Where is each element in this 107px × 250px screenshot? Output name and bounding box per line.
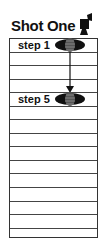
scene-node-icon[interactable] <box>55 92 85 106</box>
scene-node-icon[interactable] <box>55 38 85 52</box>
step-connector-arrow <box>0 0 107 250</box>
